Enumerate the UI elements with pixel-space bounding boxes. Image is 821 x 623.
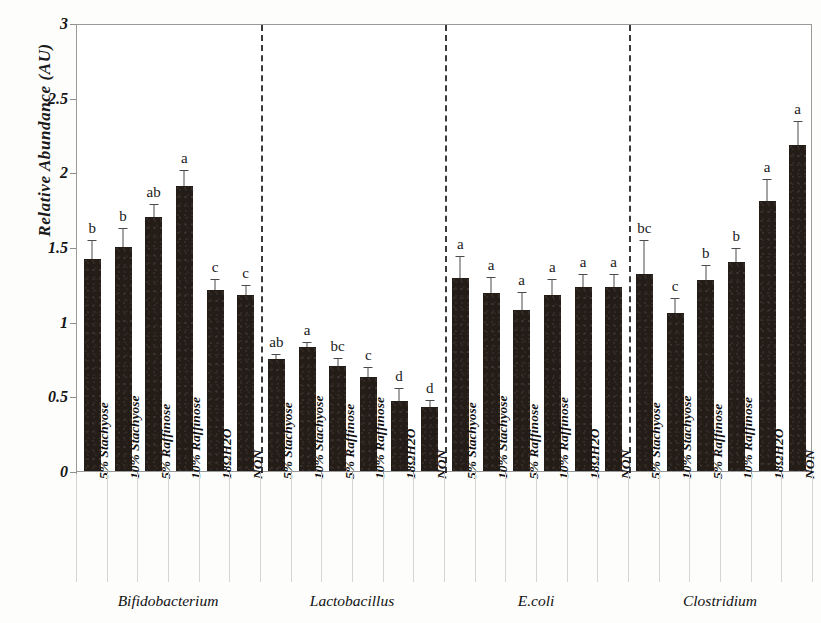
- x-label-divider: [107, 474, 108, 582]
- significance-letter: a: [457, 236, 464, 253]
- x-label-divider: [689, 474, 690, 582]
- error-bar: [460, 257, 461, 278]
- y-axis-tick-0: 0: [28, 463, 68, 481]
- bar-group: a: [605, 23, 622, 471]
- x-label-divider: [597, 474, 598, 582]
- significance-letter: c: [365, 347, 372, 364]
- x-axis-tick-label: 10% Raffinose: [188, 397, 204, 479]
- x-axis-tick-label: 18ΩH2O: [771, 428, 787, 479]
- x-axis-tick-label: 5% Raffinose: [158, 404, 174, 479]
- bar: [237, 295, 254, 471]
- bar-group: a: [789, 23, 806, 471]
- group-label-bifidobacterium: Bifidobacterium: [118, 592, 219, 610]
- significance-letter: a: [610, 254, 617, 271]
- error-bar: [153, 205, 154, 217]
- error-bar-cap: [517, 292, 526, 293]
- error-bar-cap: [241, 285, 250, 286]
- x-axis-tick-label: NON: [250, 450, 266, 479]
- x-axis-tick-label: 10% Raffinose: [372, 397, 388, 479]
- x-axis-tick-label: 10% Raffinose: [740, 397, 756, 479]
- x-axis-tick-label: NON: [618, 450, 634, 479]
- significance-letter: b: [119, 208, 127, 225]
- x-axis-tick-label: 5% Raffinose: [526, 404, 542, 479]
- group-label-e-coli: E.coli: [518, 592, 555, 610]
- x-axis-tick-label: NON: [434, 450, 450, 479]
- bar: [789, 145, 806, 471]
- x-axis-tick-label: 18ΩH2O: [219, 428, 235, 479]
- error-bar-cap: [763, 179, 772, 180]
- error-bar: [399, 389, 400, 401]
- x-label-divider: [168, 474, 169, 582]
- x-label-divider: [229, 474, 230, 582]
- significance-letter: a: [181, 150, 188, 167]
- error-bar: [307, 343, 308, 347]
- bar-group: c: [237, 23, 254, 471]
- error-bar: [123, 229, 124, 247]
- error-bar-cap: [425, 400, 434, 401]
- x-axis-tick-label: NON: [802, 450, 818, 479]
- bar-chart-figure: Relative Abundance (AU) 00.511.522.53 bb…: [0, 0, 821, 623]
- x-axis-tick-label: 18ΩH2O: [403, 428, 419, 479]
- x-axis-tick-label: 10% Stachyose: [311, 395, 327, 479]
- error-bar: [337, 359, 338, 366]
- x-axis-tick-label: 18ΩH2O: [587, 428, 603, 479]
- x-label-divider: [260, 474, 261, 582]
- significance-letter: b: [89, 220, 97, 237]
- significance-letter: d: [426, 380, 434, 397]
- significance-letter: b: [702, 245, 710, 262]
- x-label-divider: [413, 474, 414, 582]
- error-bar: [521, 293, 522, 309]
- bar-group: a: [759, 23, 776, 471]
- x-axis-tick-label: 5% Stachyose: [280, 402, 296, 479]
- bar-group: c: [207, 23, 224, 471]
- significance-letter: a: [488, 257, 495, 274]
- x-label-divider: [659, 474, 660, 582]
- error-bar-cap: [548, 279, 557, 280]
- error-bar-cap: [640, 240, 649, 241]
- x-axis-tick-label: 10% Stachyose: [127, 395, 143, 479]
- error-bar: [644, 241, 645, 274]
- error-bar-cap: [579, 274, 588, 275]
- y-axis-tickmark: [70, 248, 76, 249]
- x-axis-tick-label: 5% Raffinose: [710, 404, 726, 479]
- error-bar: [92, 241, 93, 259]
- x-label-divider: [199, 474, 200, 582]
- x-label-divider: [567, 474, 568, 582]
- y-axis-tick-2.5: 2.5: [28, 90, 68, 108]
- significance-letter: ab: [147, 184, 161, 201]
- error-bar: [552, 280, 553, 295]
- x-label-divider: [291, 474, 292, 582]
- significance-letter: bc: [331, 338, 345, 355]
- y-axis-tick-3: 3: [28, 15, 68, 33]
- y-axis-tickmark: [70, 472, 76, 473]
- error-bar-cap: [88, 240, 97, 241]
- x-axis-tick-label: 5% Raffinose: [342, 404, 358, 479]
- error-bar: [797, 122, 798, 146]
- x-label-divider: [628, 474, 629, 582]
- x-axis-tick-label: 5% Stachyose: [464, 402, 480, 479]
- y-axis-tick-labels: 00.511.522.53: [20, 0, 68, 623]
- x-axis-tick-label: 10% Stachyose: [495, 395, 511, 479]
- x-label-divider: [352, 474, 353, 582]
- y-axis-tickmark: [70, 173, 76, 174]
- group-label-lactobacillus: Lactobacillus: [310, 592, 394, 610]
- significance-letter: bc: [637, 220, 651, 237]
- x-axis-tick-label: 10% Raffinose: [556, 397, 572, 479]
- y-axis-tickmark: [70, 24, 76, 25]
- error-bar-cap: [793, 121, 802, 122]
- y-axis-tick-1.5: 1.5: [28, 239, 68, 257]
- error-bar-cap: [119, 228, 128, 229]
- error-bar-cap: [671, 298, 680, 299]
- y-axis-tickmark: [70, 397, 76, 398]
- error-bar: [583, 275, 584, 287]
- x-label-divider: [812, 474, 813, 582]
- x-label-divider: [444, 474, 445, 582]
- error-bar-cap: [333, 358, 342, 359]
- y-axis-tick-1: 1: [28, 314, 68, 332]
- error-bar-cap: [149, 204, 158, 205]
- error-bar: [245, 286, 246, 295]
- error-bar: [429, 401, 430, 407]
- significance-letter: d: [395, 368, 403, 385]
- y-axis-tick-2: 2: [28, 164, 68, 182]
- error-bar-cap: [487, 277, 496, 278]
